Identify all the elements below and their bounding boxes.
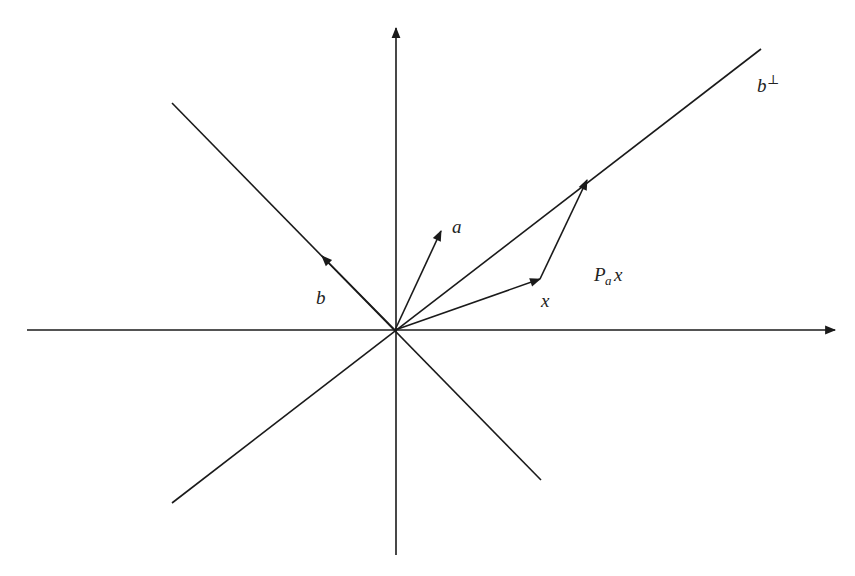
label-a: a <box>452 216 462 237</box>
vector-x-arrow <box>395 279 540 330</box>
label-x: x <box>540 290 550 311</box>
vector-a-arrow <box>395 231 441 330</box>
vector-b-arrow <box>322 256 395 330</box>
label-b-perp-superscript: ⊥ <box>767 72 779 87</box>
projection-diagram: a b x b ⊥ P a x <box>0 0 855 576</box>
vector-pax-arrow <box>540 180 587 279</box>
label-b: b <box>316 287 326 308</box>
label-b-perp-base: b <box>757 75 767 96</box>
label-b-perp: b <box>757 75 767 96</box>
label-pax-subscript: a <box>605 273 612 288</box>
line-b-perp <box>172 49 761 503</box>
label-pax-x: x <box>613 264 623 285</box>
